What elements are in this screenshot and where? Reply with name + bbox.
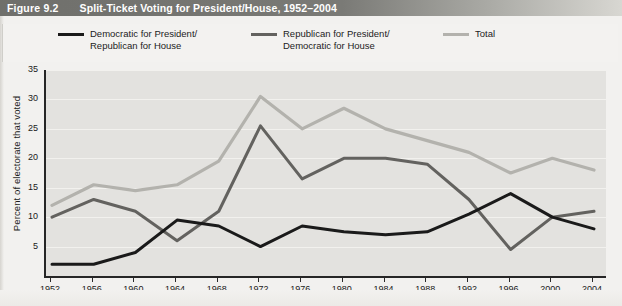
legend-label-republican: Republican for President/ Democratic for… xyxy=(283,28,390,51)
plot-region xyxy=(44,70,606,278)
x-axis-tick xyxy=(258,278,259,282)
y-axis-tick-label: 15 xyxy=(2,182,38,192)
figure-title: Split-Ticket Voting for President/House,… xyxy=(80,2,337,14)
x-axis-tick xyxy=(175,278,176,282)
y-axis-tick-label: 5 xyxy=(2,241,38,251)
legend-swatch-total-icon xyxy=(443,33,469,36)
figure-number: Figure 9.2 xyxy=(7,2,59,14)
legend-swatch-republican-icon xyxy=(251,33,277,36)
legend-label-total: Total xyxy=(475,28,495,40)
x-axis-tick xyxy=(467,278,468,282)
y-axis-tick-label: 35 xyxy=(2,64,38,74)
x-axis-tick xyxy=(50,278,51,282)
legend-swatch-democratic-icon xyxy=(58,33,84,36)
y-axis-tick-label: 30 xyxy=(2,93,38,103)
x-axis-tick xyxy=(92,278,93,282)
legend-item-total: Total xyxy=(443,28,495,40)
series-line-republican xyxy=(52,126,594,250)
legend-label-democratic: Democratic for President/ Republican for… xyxy=(90,28,197,51)
chart-area: Percent of electorate that voted 5101520… xyxy=(0,62,622,306)
series-line-total xyxy=(52,96,594,205)
x-axis-tick xyxy=(384,278,385,282)
x-axis-tick xyxy=(509,278,510,282)
x-axis-tick xyxy=(342,278,343,282)
x-axis-tick xyxy=(300,278,301,282)
x-axis-tick xyxy=(425,278,426,282)
x-axis-tick xyxy=(217,278,218,282)
x-axis-tick xyxy=(133,278,134,282)
chart-legend: Democratic for President/ Republican for… xyxy=(2,24,618,62)
y-axis-tick-label: 10 xyxy=(2,211,38,221)
y-axis-tick-label: 25 xyxy=(2,123,38,133)
series-lines xyxy=(46,70,606,276)
y-axis-tick-label: 20 xyxy=(2,152,38,162)
legend-item-republican: Republican for President/ Democratic for… xyxy=(251,28,390,51)
x-axis-tick xyxy=(592,278,593,282)
legend-item-democratic: Democratic for President/ Republican for… xyxy=(58,28,197,51)
x-axis-tick xyxy=(550,278,551,282)
page-edge xyxy=(0,290,622,306)
figure-title-bar: Figure 9.2 Split-Ticket Voting for Presi… xyxy=(0,0,622,16)
series-line-democratic xyxy=(52,194,594,265)
